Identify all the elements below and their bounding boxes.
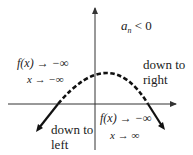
left-behavior-label-line2: left	[51, 138, 68, 151]
left-behavior-label-line1: down to	[51, 123, 93, 136]
leading-coefficient-condition: an < 0	[121, 19, 152, 35]
end-behavior-diagram: an < 0 f(x) → −∞ x → −∞ down to right f(…	[0, 0, 193, 155]
right-variable-limit: x → ∞	[110, 130, 139, 141]
condition-relation: < 0	[135, 18, 152, 33]
right-behavior-label-line1: down to	[143, 58, 185, 71]
right-function-limit: f(x) → −∞	[100, 112, 151, 124]
left-variable-limit: x → −∞	[27, 74, 64, 85]
right-behavior-label-line2: right	[143, 73, 168, 86]
left-function-limit: f(x) → −∞	[17, 57, 68, 69]
condition-subscript: n	[128, 26, 132, 35]
curve-dashed-middle	[58, 73, 148, 104]
